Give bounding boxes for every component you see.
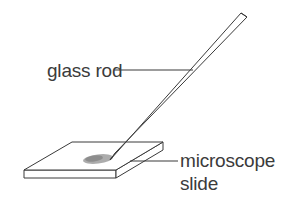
glass-rod bbox=[110, 13, 247, 160]
slide-front-face bbox=[24, 170, 116, 178]
rod-body bbox=[110, 13, 247, 160]
microscope-slide-label-line1: microscope bbox=[180, 150, 275, 171]
microscope-slide-label-line2: slide bbox=[180, 173, 218, 194]
diagram-svg: glass rod microscope slide bbox=[0, 0, 302, 205]
diagram-canvas: glass rod microscope slide bbox=[0, 0, 302, 205]
glass-rod-label: glass rod bbox=[47, 60, 122, 81]
